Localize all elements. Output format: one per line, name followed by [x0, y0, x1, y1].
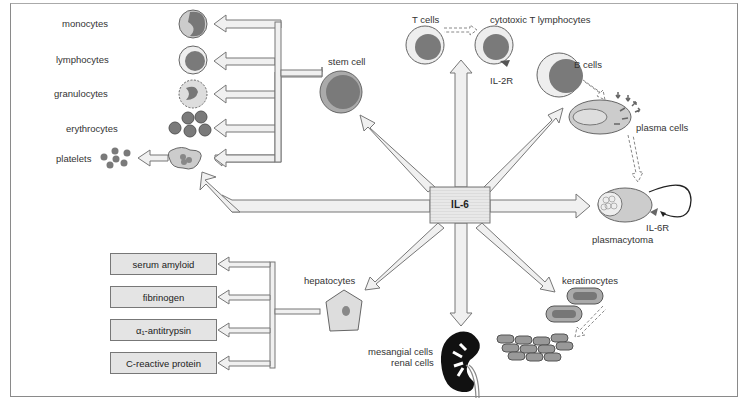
arrow-up-t-cells	[450, 60, 472, 187]
label-plasmacytoma: plasmacytoma	[592, 234, 653, 245]
label-cytotoxic-t-lymphocytes: cytotoxic T lymphocytes	[490, 14, 591, 25]
protein-box-alpha1-antitrypsin: α₁-antitrypsin	[110, 319, 217, 341]
granulocyte-cell-icon	[179, 80, 207, 108]
label-erythrocytes: erythrocytes	[66, 123, 118, 134]
arrow-left-megakaryocyte	[222, 195, 430, 212]
platelets-icon	[101, 148, 131, 169]
label-platelets: platelets	[56, 153, 91, 164]
label-keratinocytes: keratinocytes	[562, 275, 618, 286]
label-lymphocytes: lymphocytes	[56, 54, 109, 65]
protein-box-c-reactive-protein: C-reactive protein	[110, 352, 217, 374]
hematopoiesis-arrows	[138, 15, 322, 167]
stem-cell-icon	[320, 71, 362, 113]
b-cell-dashed-arrow	[583, 80, 605, 100]
t-cell-differentiation-dashed-arrow	[444, 25, 477, 35]
plasmacytoma-cell-icon	[598, 188, 658, 222]
protein-box-fibrinogen: fibrinogen	[110, 286, 217, 308]
keratinocytes-icon	[546, 288, 603, 322]
hepatocyte-cell-icon	[326, 290, 362, 331]
erythrocytes-icon	[169, 111, 211, 137]
label-granulocytes: granulocytes	[54, 88, 108, 99]
label-monocytes: monocytes	[62, 18, 108, 29]
label-il2r: IL-2R	[490, 75, 513, 86]
arrow-diag-plasma-cells	[484, 108, 563, 192]
label-t-cells: T cells	[412, 14, 439, 25]
arrow-diag-keratinocytes	[476, 223, 555, 292]
plasma-to-plasmacytoma-dashed-arrow	[628, 135, 643, 182]
arrow-diag-stem-cell	[360, 115, 435, 192]
keratinocyte-layer-icon	[497, 334, 573, 361]
label-b-cells: B cells	[574, 59, 602, 70]
arrow-down-kidney	[450, 223, 472, 326]
monocyte-cell-icon	[179, 10, 207, 38]
label-plasma-cells: plasma cells	[636, 122, 688, 133]
hub-arrows	[200, 60, 590, 326]
protein-box-serum-amyloid: serum amyloid	[110, 253, 217, 275]
t-cell-icon	[406, 26, 444, 64]
megakaryocyte-icon	[168, 148, 201, 170]
arrow-diag-hepatocytes	[365, 223, 444, 290]
lymphocyte-cell-icon	[179, 46, 207, 74]
label-hepatocytes: hepatocytes	[304, 275, 355, 286]
label-renal-cells: renal cells	[391, 357, 434, 368]
label-mesangial-cells: mesangial cells	[368, 346, 433, 357]
liver-arrows	[218, 257, 320, 370]
label-stem-cell: stem cell	[328, 56, 365, 67]
kidney-icon	[441, 332, 480, 398]
il6-hub-label: IL-6	[430, 187, 490, 223]
cytotoxic-t-cell-icon	[475, 26, 513, 67]
label-il6r: IL-6R	[646, 222, 669, 233]
arrow-right-plasmacytoma	[490, 194, 590, 218]
